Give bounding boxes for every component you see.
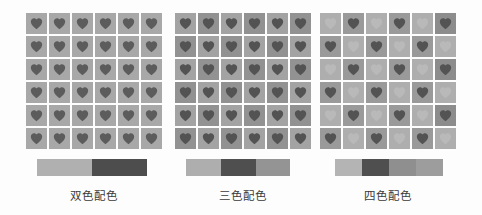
heart-tile xyxy=(290,128,311,149)
heart-icon xyxy=(248,40,261,53)
palette-panel-two-color: 双色配色 xyxy=(26,0,162,215)
heart-tile xyxy=(343,105,364,126)
heart-icon xyxy=(53,86,66,99)
heart-icon xyxy=(416,40,429,53)
heart-tile xyxy=(198,82,219,103)
heart-tile xyxy=(244,59,265,80)
heart-tile xyxy=(49,82,70,103)
heart-icon xyxy=(271,40,284,53)
heart-tile xyxy=(95,59,116,80)
heart-tile xyxy=(389,128,410,149)
heart-icon xyxy=(294,132,307,145)
palette-panel-three-color: 三色配色 xyxy=(175,0,311,215)
heart-icon xyxy=(225,132,238,145)
heart-icon xyxy=(202,109,215,122)
heart-icon xyxy=(271,86,284,99)
heart-icon xyxy=(122,40,135,53)
heart-tile xyxy=(366,13,387,34)
heart-tile xyxy=(290,13,311,34)
heart-icon xyxy=(324,132,337,145)
heart-tile xyxy=(320,105,341,126)
heart-tile xyxy=(366,59,387,80)
heart-tile xyxy=(320,36,341,57)
color-swatch xyxy=(186,159,221,176)
heart-icon xyxy=(76,40,89,53)
heart-tile xyxy=(95,13,116,34)
heart-icon xyxy=(145,63,158,76)
heart-icon xyxy=(393,17,406,30)
heart-icon xyxy=(179,86,192,99)
heart-icon xyxy=(30,109,43,122)
heart-icon xyxy=(294,109,307,122)
heart-icon xyxy=(370,132,383,145)
heart-icon xyxy=(439,40,452,53)
heart-icon xyxy=(145,132,158,145)
heart-tile xyxy=(412,59,433,80)
heart-tile xyxy=(72,128,93,149)
heart-tile xyxy=(72,105,93,126)
heart-tile xyxy=(221,82,242,103)
heart-icon xyxy=(347,109,360,122)
heart-icon xyxy=(393,63,406,76)
heart-tile xyxy=(49,128,70,149)
heart-icon xyxy=(202,86,215,99)
heart-icon xyxy=(439,17,452,30)
heart-tile xyxy=(435,82,456,103)
heart-icon xyxy=(122,17,135,30)
heart-tile xyxy=(221,128,242,149)
heart-icon xyxy=(248,109,261,122)
heart-tile xyxy=(343,59,364,80)
heart-tile xyxy=(118,105,139,126)
heart-tile xyxy=(26,82,47,103)
heart-icon xyxy=(30,132,43,145)
heart-icon xyxy=(370,40,383,53)
heart-tile xyxy=(49,105,70,126)
panel-caption: 双色配色 xyxy=(26,189,162,204)
heart-icon xyxy=(324,17,337,30)
color-swatch xyxy=(256,159,290,176)
heart-icon xyxy=(370,17,383,30)
heart-tile xyxy=(72,59,93,80)
heart-tile xyxy=(435,59,456,80)
heart-tile xyxy=(267,13,288,34)
heart-tile xyxy=(320,13,341,34)
heart-icon xyxy=(53,109,66,122)
heart-icon xyxy=(248,63,261,76)
heart-tile xyxy=(244,36,265,57)
heart-tile xyxy=(175,36,196,57)
heart-icon xyxy=(202,17,215,30)
heart-tile xyxy=(412,13,433,34)
heart-icon xyxy=(99,132,112,145)
heart-icon xyxy=(248,86,261,99)
heart-tile xyxy=(435,105,456,126)
heart-icon xyxy=(30,40,43,53)
color-swatch xyxy=(416,159,443,176)
heart-icon xyxy=(76,109,89,122)
heart-icon xyxy=(393,109,406,122)
heart-icon xyxy=(53,40,66,53)
heart-tile xyxy=(412,36,433,57)
heart-icon xyxy=(53,63,66,76)
heart-icon xyxy=(76,63,89,76)
heart-tile xyxy=(267,105,288,126)
heart-tile xyxy=(343,82,364,103)
heart-icon xyxy=(439,109,452,122)
heart-tile xyxy=(118,59,139,80)
heart-icon xyxy=(76,132,89,145)
heart-icon xyxy=(179,17,192,30)
color-swatch xyxy=(335,159,362,176)
heart-icon xyxy=(99,109,112,122)
heart-tile xyxy=(221,59,242,80)
color-swatch-bar xyxy=(37,159,147,176)
heart-tile xyxy=(95,105,116,126)
heart-tile xyxy=(141,13,162,34)
heart-icon xyxy=(248,132,261,145)
heart-tile xyxy=(118,36,139,57)
heart-tile xyxy=(343,36,364,57)
heart-tile xyxy=(221,36,242,57)
heart-tile xyxy=(221,13,242,34)
palette-panel-four-color: 四色配色 xyxy=(320,0,456,215)
heart-tile xyxy=(244,82,265,103)
heart-icon xyxy=(271,132,284,145)
heart-icon xyxy=(324,40,337,53)
